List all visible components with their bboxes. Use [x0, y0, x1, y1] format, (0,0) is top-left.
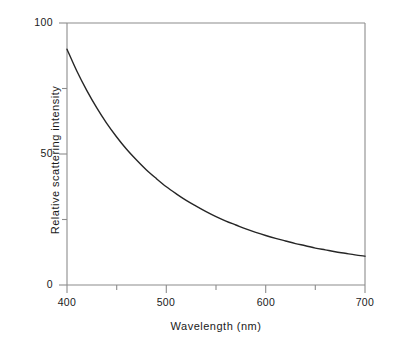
plot-frame	[67, 23, 365, 285]
x-tick-label-500: 500	[146, 296, 186, 308]
x-tick-label-600: 600	[246, 296, 286, 308]
x-tick-label-700: 700	[345, 296, 385, 308]
chart-figure: 100 50 0 400 500 600 700 Wavelength (nm)…	[0, 0, 394, 346]
x-axis-title: Wavelength (nm)	[67, 320, 365, 332]
scattering-curve	[67, 49, 365, 256]
x-tick-label-400: 400	[47, 296, 87, 308]
y-tick-label-100: 100	[20, 16, 53, 28]
x-axis-minor-ticks	[117, 285, 316, 290]
y-axis-title: Relative scattering intensity	[49, 29, 61, 291]
